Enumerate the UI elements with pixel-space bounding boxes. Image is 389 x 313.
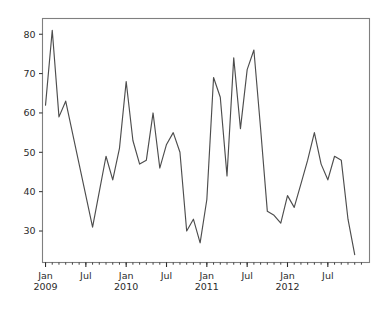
y-tick-label: 30 bbox=[23, 225, 35, 236]
x-tick-label-month: Jan bbox=[279, 270, 295, 281]
line-chart: 304050607080 Jan2009JulJan2010JulJan2011… bbox=[0, 0, 389, 313]
y-tick-label: 50 bbox=[23, 147, 35, 158]
y-tick-label: 80 bbox=[23, 29, 35, 40]
y-tick-label: 70 bbox=[23, 68, 35, 79]
x-tick-label-month: Jan bbox=[199, 270, 215, 281]
x-tick-label-year: 2012 bbox=[275, 281, 299, 292]
x-tick-label-year: 2009 bbox=[33, 281, 57, 292]
x-tick-label-year: 2011 bbox=[195, 281, 219, 292]
chart-figure: 304050607080 Jan2009JulJan2010JulJan2011… bbox=[0, 0, 389, 313]
x-tick-label-month: Jul bbox=[79, 270, 91, 281]
y-tick-label: 40 bbox=[23, 186, 35, 197]
x-tick-label-month: Jul bbox=[240, 270, 252, 281]
x-tick-label-month: Jan bbox=[118, 270, 134, 281]
y-tick-label: 60 bbox=[23, 107, 35, 118]
figure-background bbox=[0, 0, 389, 313]
x-tick-label-month: Jul bbox=[160, 270, 172, 281]
x-tick-label-month: Jan bbox=[37, 270, 53, 281]
x-tick-label-year: 2010 bbox=[114, 281, 138, 292]
x-tick-label-month: Jul bbox=[321, 270, 333, 281]
